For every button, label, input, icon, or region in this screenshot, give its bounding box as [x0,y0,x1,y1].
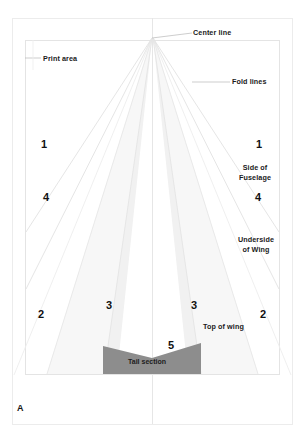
sheet-letter: A [17,404,24,413]
callout-side-of-fuselage: Side of Fuselage [229,163,281,182]
fold-number-left-2: 2 [38,309,44,320]
fold-number-right-3: 3 [191,300,197,311]
center-line-leader [152,33,192,38]
fold-number-right-4: 4 [255,192,261,203]
fold-number-left-1: 1 [41,139,47,150]
callout-underside-of-wing: Underside of Wing [228,235,284,254]
fold-number-right-2: 2 [260,309,266,320]
paper-airplane-fold-diagram: Center line Print area Fold lines Side o… [0,0,305,439]
callout-print-area: Print area [43,54,77,64]
fold-number-left-4: 4 [43,192,49,203]
callout-center-line: Center line [193,28,231,38]
fold-number-left-3: 3 [106,300,112,311]
fold-plan-graphic [0,0,305,439]
fold-number-right-1: 1 [256,139,262,150]
fold-number-tail-5: 5 [168,340,174,351]
callout-tail-section: Tail section [128,358,166,366]
callout-top-of-wing: Top of wing [203,322,244,332]
callout-fold-lines: Fold lines [232,77,267,87]
